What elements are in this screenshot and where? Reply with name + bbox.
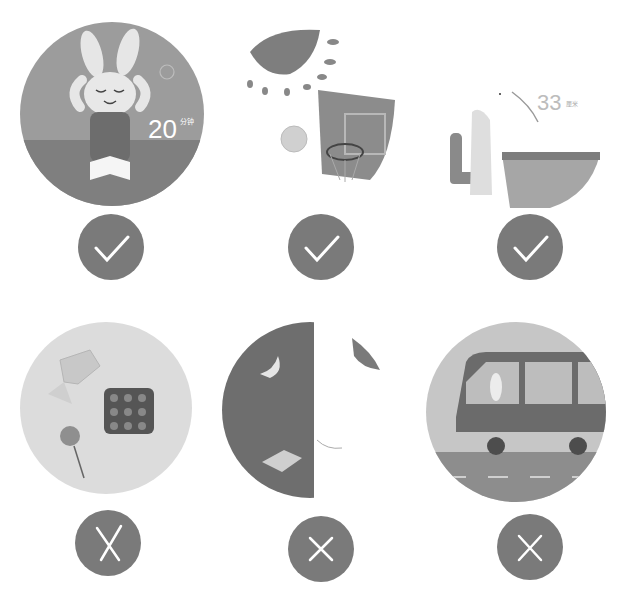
correct-badge <box>497 214 563 280</box>
check-icon <box>497 214 563 280</box>
illustration-outdoor-basketball <box>230 22 410 202</box>
moon-and-book-icon <box>222 322 398 498</box>
bus-icon <box>426 322 606 502</box>
illustration-candy <box>20 322 200 502</box>
correct-badge <box>78 214 144 280</box>
wrong-badge <box>288 516 354 582</box>
distance-value: 33 <box>537 90 561 116</box>
correct-badge <box>288 214 354 280</box>
cross-icon <box>497 514 563 580</box>
scene-circle <box>20 322 192 494</box>
scene-dark-half <box>222 322 398 498</box>
desk-chair-icon <box>430 50 610 220</box>
illustration-desk-33cm: 33 厘米 <box>430 50 610 220</box>
scene-circle: 20 分钟 <box>20 22 204 206</box>
cross-icon <box>288 516 354 582</box>
sun-and-hoop-icon <box>230 22 410 202</box>
scene-circle <box>426 322 606 502</box>
check-icon <box>78 214 144 280</box>
illustration-rabbit-reading-20min: 20 分钟 <box>20 22 210 212</box>
duration-unit: 分钟 <box>180 116 194 126</box>
wrong-badge <box>497 514 563 580</box>
illustration-reading-on-bus <box>426 322 612 502</box>
duration-value: 20 <box>148 114 177 145</box>
illustration-reading-in-dark <box>222 322 402 502</box>
check-icon <box>288 214 354 280</box>
distance-unit: 厘米 <box>566 99 578 108</box>
candy-icon <box>20 322 192 494</box>
cross-icon <box>75 510 141 576</box>
wrong-badge <box>75 510 141 576</box>
